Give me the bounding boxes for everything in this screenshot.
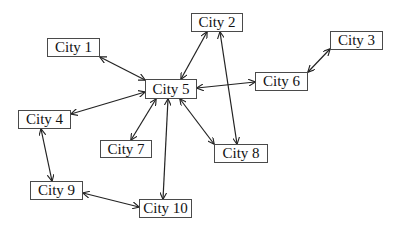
- node-city-9: City 9: [30, 181, 83, 200]
- node-city-5: City 5: [145, 79, 197, 99]
- node-city-1: City 1: [47, 38, 100, 57]
- node-label: City 8: [222, 146, 259, 161]
- node-label: City 4: [26, 112, 63, 127]
- node-label: City 9: [38, 183, 75, 198]
- edge-city4-city9: [41, 129, 52, 181]
- node-label: City 6: [263, 74, 300, 89]
- node-city-4: City 4: [18, 110, 71, 129]
- node-city-3: City 3: [330, 31, 383, 50]
- edge-city3-city6: [308, 49, 330, 72]
- edge-city2-city8: [220, 32, 237, 144]
- node-city-7: City 7: [100, 140, 152, 158]
- edge-city5-city10: [163, 99, 168, 199]
- edge-city5-city7: [131, 99, 156, 140]
- edge-city5-city6: [197, 82, 255, 88]
- edge-city1-city5: [100, 57, 145, 80]
- node-label: City 2: [198, 15, 235, 30]
- node-label: City 3: [338, 33, 375, 48]
- edge-city5-city8: [180, 99, 214, 144]
- edge-city4-city5: [71, 92, 145, 114]
- node-label: City 10: [143, 201, 188, 216]
- node-city-6: City 6: [255, 72, 308, 91]
- node-label: City 5: [152, 82, 189, 97]
- network-diagram: City 1 City 2 City 3 City 4 City 5 City …: [0, 0, 401, 230]
- node-label: City 7: [107, 142, 144, 157]
- edge-city2-city5: [181, 32, 207, 79]
- node-city-2: City 2: [191, 13, 243, 32]
- node-city-8: City 8: [214, 144, 268, 163]
- node-label: City 1: [55, 40, 92, 55]
- edge-city9-city10: [83, 193, 139, 207]
- node-city-10: City 10: [139, 199, 192, 218]
